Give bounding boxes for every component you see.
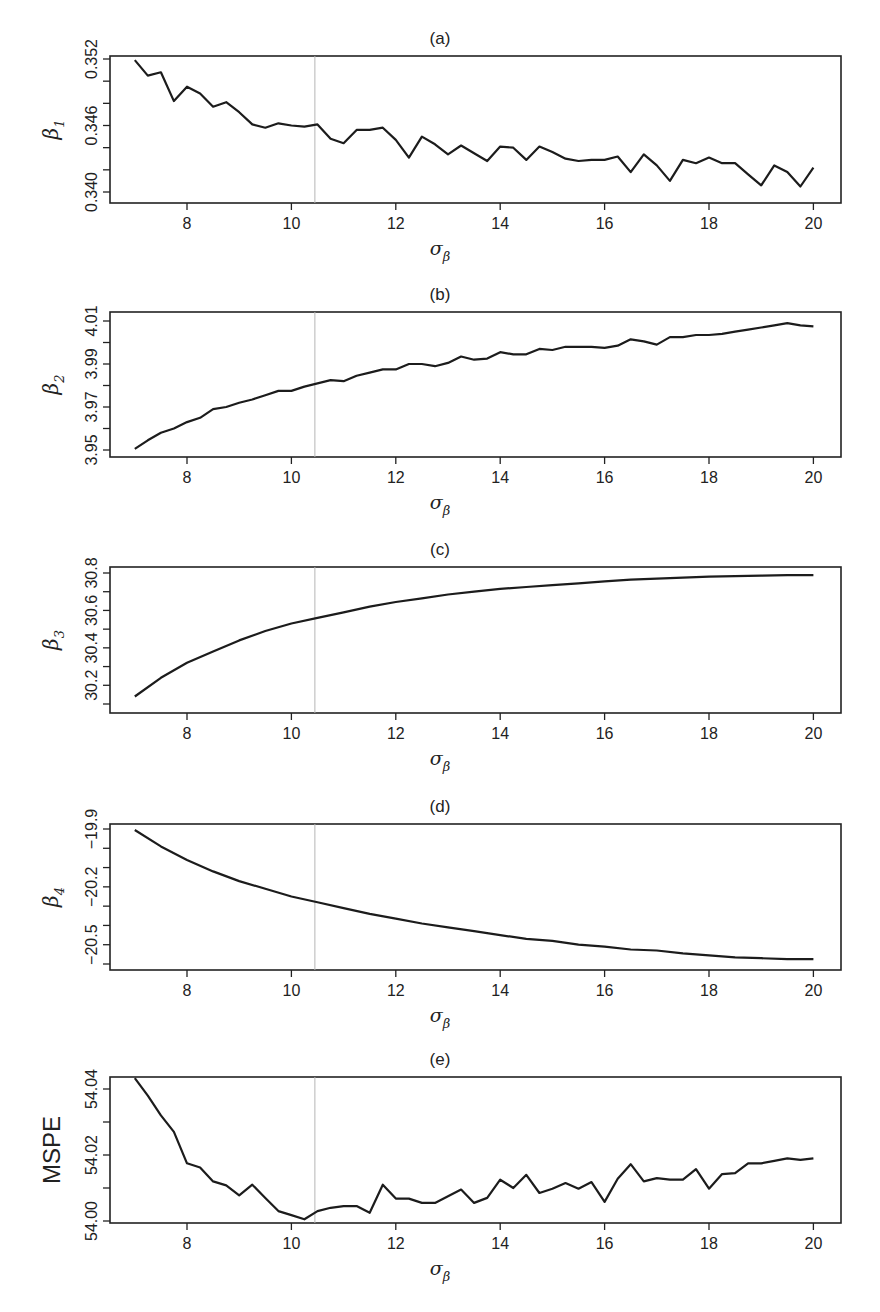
- x-tick-label: 8: [183, 469, 192, 486]
- x-tick-label: 16: [596, 982, 614, 999]
- x-tick-label: 8: [183, 1235, 192, 1252]
- y-tick-label: 30.2: [83, 670, 100, 701]
- data-line: [135, 830, 814, 959]
- x-tick-label: 10: [283, 725, 301, 742]
- x-tick-label: 14: [491, 1235, 509, 1252]
- y-axis-label: MSPE: [38, 1116, 65, 1184]
- x-tick-label: 18: [700, 725, 718, 742]
- panel-title: (e): [430, 1050, 451, 1069]
- x-tick-label: 16: [596, 725, 614, 742]
- data-line: [135, 60, 814, 186]
- x-axis-label: σβ: [430, 491, 451, 518]
- x-tick-label: 12: [387, 982, 405, 999]
- x-tick-label: 16: [596, 469, 614, 486]
- x-tick-label: 8: [183, 725, 192, 742]
- y-tick-label: 0.346: [83, 105, 100, 145]
- y-tick-label: 54.00: [83, 1201, 100, 1241]
- x-axis-label: σβ: [430, 1257, 451, 1284]
- plot-frame: [110, 1077, 841, 1223]
- y-tick-label: −19.9: [83, 809, 100, 850]
- x-tick-label: 18: [700, 215, 718, 232]
- x-tick-label: 8: [183, 215, 192, 232]
- chart-panel-e: (e)8101214161820σβ54.0054.0254.04MSPE: [38, 1050, 841, 1284]
- y-tick-label: 30.8: [83, 557, 100, 588]
- x-tick-label: 16: [596, 215, 614, 232]
- y-tick-label: 30.4: [83, 632, 100, 663]
- x-tick-label: 10: [283, 982, 301, 999]
- x-tick-label: 20: [805, 1235, 823, 1252]
- x-tick-label: 8: [183, 982, 192, 999]
- x-tick-label: 18: [700, 982, 718, 999]
- data-line: [135, 575, 814, 696]
- panel-title: (c): [430, 540, 450, 559]
- y-tick-label: 54.02: [83, 1135, 100, 1175]
- x-tick-label: 10: [283, 215, 301, 232]
- panel-title: (d): [430, 797, 451, 816]
- x-tick-label: 14: [491, 215, 509, 232]
- chart-panel-b: (b)8101214161820σβ3.953.973.994.01β2: [39, 285, 841, 518]
- x-tick-label: 10: [283, 1235, 301, 1252]
- y-tick-label: 0.352: [83, 39, 100, 79]
- x-axis-label: σβ: [430, 1004, 451, 1031]
- data-line: [135, 1078, 814, 1219]
- y-axis-label: β1: [39, 120, 67, 141]
- y-tick-label: −20.2: [83, 867, 100, 908]
- plot-frame: [110, 56, 841, 203]
- y-axis-label: β3: [39, 630, 67, 651]
- x-tick-label: 20: [805, 725, 823, 742]
- x-tick-label: 18: [700, 469, 718, 486]
- y-axis-label: β4: [39, 887, 67, 908]
- x-tick-label: 20: [805, 469, 823, 486]
- chart-panel-a: (a)8101214161820σβ0.3400.3460.352β1: [39, 29, 841, 264]
- chart-panel-c: (c)8101214161820σβ30.230.430.630.8β3: [39, 540, 841, 774]
- x-tick-label: 14: [491, 469, 509, 486]
- plot-frame: [110, 824, 841, 970]
- x-tick-label: 12: [387, 725, 405, 742]
- panel-title: (b): [430, 285, 451, 304]
- y-tick-label: 3.95: [83, 434, 100, 465]
- x-tick-label: 14: [491, 725, 509, 742]
- y-tick-label: 54.04: [83, 1069, 100, 1109]
- y-tick-label: −20.5: [83, 924, 100, 965]
- x-tick-label: 20: [805, 982, 823, 999]
- y-axis-label: β2: [39, 375, 67, 396]
- x-axis-label: σβ: [430, 237, 451, 264]
- x-tick-label: 12: [387, 469, 405, 486]
- x-tick-label: 18: [700, 1235, 718, 1252]
- panel-title: (a): [430, 29, 451, 48]
- x-tick-label: 12: [387, 215, 405, 232]
- y-tick-label: 3.99: [83, 348, 100, 379]
- y-tick-label: 4.01: [83, 305, 100, 336]
- x-tick-label: 20: [805, 215, 823, 232]
- plot-frame: [110, 312, 841, 457]
- x-tick-label: 14: [491, 982, 509, 999]
- y-tick-label: 0.340: [83, 172, 100, 212]
- x-tick-label: 16: [596, 1235, 614, 1252]
- x-tick-label: 12: [387, 1235, 405, 1252]
- y-tick-label: 30.6: [83, 595, 100, 626]
- y-tick-label: 3.97: [83, 391, 100, 422]
- data-line: [135, 323, 814, 449]
- plot-frame: [110, 567, 841, 713]
- figure-stack: (a)8101214161820σβ0.3400.3460.352β1(b)81…: [0, 0, 880, 1312]
- chart-panel-d: (d)8101214161820σβ−20.5−20.2−19.9β4: [39, 797, 841, 1031]
- x-tick-label: 10: [283, 469, 301, 486]
- x-axis-label: σβ: [430, 747, 451, 774]
